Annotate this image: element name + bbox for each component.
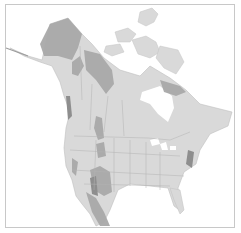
aleutian-islands	[6, 48, 28, 56]
north-america-map	[0, 0, 241, 233]
arctic-islands	[104, 8, 184, 74]
